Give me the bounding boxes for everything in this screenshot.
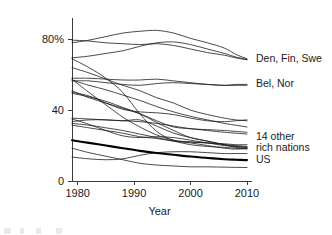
- annotation-us: US: [256, 153, 271, 165]
- series-line-france: [72, 148, 247, 167]
- series-lines: [72, 30, 247, 167]
- series-annotations: Den, Fin, SweBel, Nor14 otherrich nation…: [256, 52, 322, 165]
- x-axis-tick-labels: 1980199020002010: [65, 187, 259, 199]
- series-line-denmark: [72, 40, 247, 59]
- page-scan-artifact: [4, 228, 154, 234]
- x-tick-label-1990: 1990: [122, 187, 146, 199]
- annotation-bel-nor: Bel, Nor: [256, 77, 294, 89]
- y-tick-label-80: 80%: [42, 33, 64, 45]
- series-line-japan: [72, 125, 247, 149]
- y-axis-tick-labels: 04080%: [42, 33, 64, 187]
- series-line-finland: [72, 42, 247, 60]
- y-tick-label-40: 40: [52, 104, 64, 116]
- x-tick-label-1980: 1980: [65, 187, 89, 199]
- y-axis-ticks: [68, 39, 72, 181]
- x-tick-label-2000: 2000: [178, 187, 202, 199]
- x-tick-label-2010: 2010: [235, 187, 259, 199]
- series-line-australia: [72, 93, 247, 148]
- chart-figure: 04080% 1980199020002010 Den, Fin, SweBel…: [0, 0, 332, 235]
- annotation-den-fin-swe: Den, Fin, Swe: [256, 52, 322, 64]
- x-axis-ticks: [78, 181, 247, 185]
- x-axis-title: Year: [148, 205, 171, 217]
- series-line-belgium: [72, 81, 247, 86]
- y-tick-label-0: 0: [58, 175, 64, 187]
- line-chart-canvas: 04080% 1980199020002010 Den, Fin, SweBel…: [0, 0, 332, 235]
- annotation-14-other-rich-nations-line2: rich nations: [256, 141, 310, 153]
